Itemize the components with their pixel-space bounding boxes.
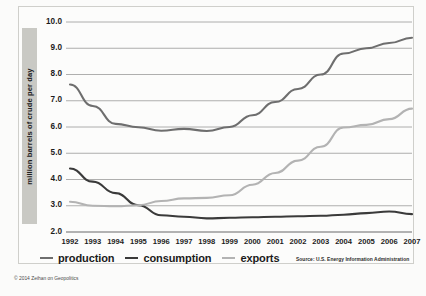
gridlines	[66, 22, 412, 232]
series-line-production	[70, 38, 412, 131]
legend-line-icon	[222, 257, 235, 260]
y-axis-tick-label: 9.0	[36, 43, 62, 52]
series-line-consumption	[70, 168, 412, 218]
chart-figure: million barrels of crude per day 10.09.0…	[0, 0, 426, 296]
chart-legend: productionconsumptionexports	[40, 252, 279, 264]
legend-label: production	[58, 252, 114, 264]
legend-item-exports[interactable]: exports	[222, 252, 279, 264]
y-axis-tick-label: 6.0	[36, 122, 62, 131]
y-axis-tick-label: 2.0	[36, 227, 62, 236]
legend-item-production[interactable]: production	[40, 252, 114, 264]
y-axis-tick-label: 5.0	[36, 148, 62, 157]
legend-label: exports	[240, 252, 279, 264]
copyright-notice: © 2014 Zeihan on Geopolitics	[14, 276, 79, 281]
y-axis-tick-label: 3.0	[36, 200, 62, 209]
y-axis-tick-label: 10.0	[36, 17, 62, 26]
data-series-group	[70, 38, 412, 219]
x-axis-tick-label: 2007	[399, 237, 425, 246]
y-axis-tick-label: 4.0	[36, 174, 62, 183]
source-attribution: Source: U.S. Energy Information Administ…	[296, 257, 409, 262]
legend-line-icon	[40, 257, 53, 260]
legend-item-consumption[interactable]: consumption	[125, 252, 211, 264]
legend-label: consumption	[143, 252, 211, 264]
legend-line-icon	[125, 257, 138, 260]
y-axis-tick-label: 8.0	[36, 69, 62, 78]
y-axis-tick-label: 7.0	[36, 95, 62, 104]
